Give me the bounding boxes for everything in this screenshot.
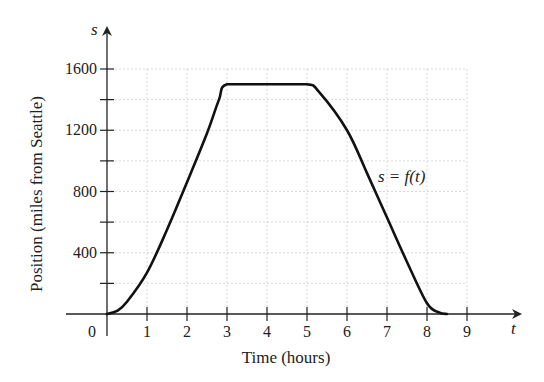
x-axis: 123456789 [66, 307, 520, 340]
x-tick-label: 1 [143, 323, 151, 340]
x-tick-label: 5 [303, 323, 311, 340]
y-tick-label: 1200 [65, 121, 97, 138]
origin-label: 0 [88, 323, 96, 340]
x-tick-label: 2 [183, 323, 191, 340]
x-tick-label: 4 [263, 323, 271, 340]
y-tick-label: 800 [73, 183, 97, 200]
y-axis-title: Position (miles from Seattle) [27, 96, 46, 292]
y-var-label: s [91, 20, 98, 39]
x-axis-title: Time (hours) [242, 348, 331, 367]
x-var-label: t [511, 319, 517, 338]
x-tick-label: 7 [383, 323, 391, 340]
x-tick-label: 9 [463, 323, 471, 340]
curve-annotation: s = f(t) [378, 167, 426, 186]
series-line [107, 84, 447, 314]
x-tick-label: 3 [223, 323, 231, 340]
chart: 40080012001600 123456789 s t 0 Time (hou… [0, 0, 544, 382]
x-tick-label: 8 [423, 323, 431, 340]
y-tick-label: 1600 [65, 60, 97, 77]
y-tick-label: 400 [73, 244, 97, 261]
x-tick-label: 6 [343, 323, 351, 340]
y-axis: 40080012001600 [65, 28, 114, 336]
